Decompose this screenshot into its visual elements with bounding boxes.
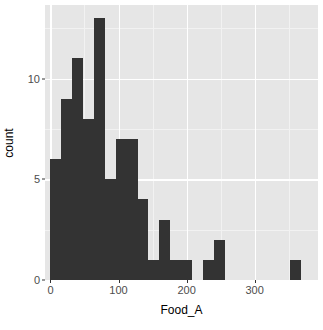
x-tick-label: 200 — [177, 284, 195, 297]
histogram-bar — [83, 119, 94, 280]
histogram-bar — [72, 58, 83, 280]
x-tick-mark — [255, 280, 256, 283]
grid-line-minor-horizontal — [45, 28, 318, 29]
x-tick-mark — [187, 280, 188, 283]
histogram-bar — [290, 260, 301, 280]
grid-line-major-vertical — [255, 5, 256, 280]
x-axis-title-label: Food_A — [160, 303, 202, 317]
x-axis-title: Food_A — [45, 303, 318, 317]
y-tick-label: 10 — [18, 73, 45, 84]
histogram-bar — [170, 260, 181, 280]
grid-line-minor-vertical — [289, 5, 290, 280]
y-axis-ticks: 0510 — [18, 0, 45, 330]
histogram-bar — [127, 139, 138, 280]
histogram-bar — [181, 260, 192, 280]
histogram-bar — [116, 139, 127, 280]
grid-line-major-horizontal — [45, 79, 318, 80]
histogram-bar — [148, 260, 159, 280]
histogram-bar — [50, 159, 61, 280]
y-axis-title-label: count — [2, 128, 16, 157]
x-tick-label: 300 — [245, 284, 263, 297]
histogram-bar — [203, 260, 214, 280]
x-tick-label: 100 — [109, 284, 127, 297]
histogram-bar — [138, 199, 149, 280]
histogram-chart: count 0510 0100200300 Food_A — [0, 0, 323, 330]
y-tick-label: 5 — [18, 174, 45, 185]
grid-line-minor-vertical — [153, 5, 154, 280]
x-axis-ticks: 0100200300 — [45, 280, 318, 302]
grid-line-major-vertical — [187, 5, 188, 280]
x-tick-mark — [50, 280, 51, 283]
x-tick-label: 0 — [47, 284, 53, 297]
y-axis-title: count — [0, 0, 18, 285]
y-tick-label: 0 — [18, 275, 45, 286]
x-tick-mark — [119, 280, 120, 283]
histogram-bar — [105, 179, 116, 280]
plot-panel — [45, 5, 318, 280]
histogram-bar — [61, 99, 72, 280]
histogram-bar — [94, 18, 105, 280]
histogram-bar — [214, 240, 225, 280]
histogram-bar — [159, 220, 170, 280]
